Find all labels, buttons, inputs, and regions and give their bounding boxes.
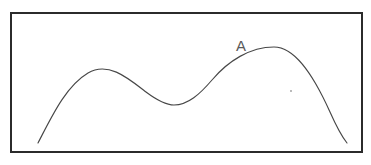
curve-label-a: A [236,37,246,54]
plot-border [11,13,362,152]
figure-canvas: A [0,0,371,165]
ink-speck-icon [290,90,292,92]
figure-root: A [0,0,371,165]
